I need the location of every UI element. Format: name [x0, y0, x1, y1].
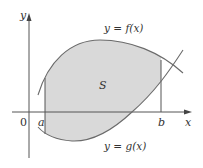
- curve-g-label: y = g(x): [103, 140, 146, 152]
- x-axis-arrow-icon: [184, 110, 192, 115]
- origin-label: 0: [20, 116, 27, 129]
- region-s-label: S: [99, 79, 107, 92]
- bound-b-label: b: [158, 116, 165, 129]
- area-between-curves-diagram: y x 0 a b S y = f(x) y = g(x): [0, 0, 203, 168]
- bound-a-label: a: [38, 116, 45, 129]
- y-axis-arrow-icon: [27, 13, 32, 21]
- curve-f-label: y = f(x): [103, 22, 143, 34]
- y-axis: [27, 13, 32, 158]
- y-axis-label: y: [19, 9, 27, 22]
- x-axis-label: x: [185, 116, 192, 129]
